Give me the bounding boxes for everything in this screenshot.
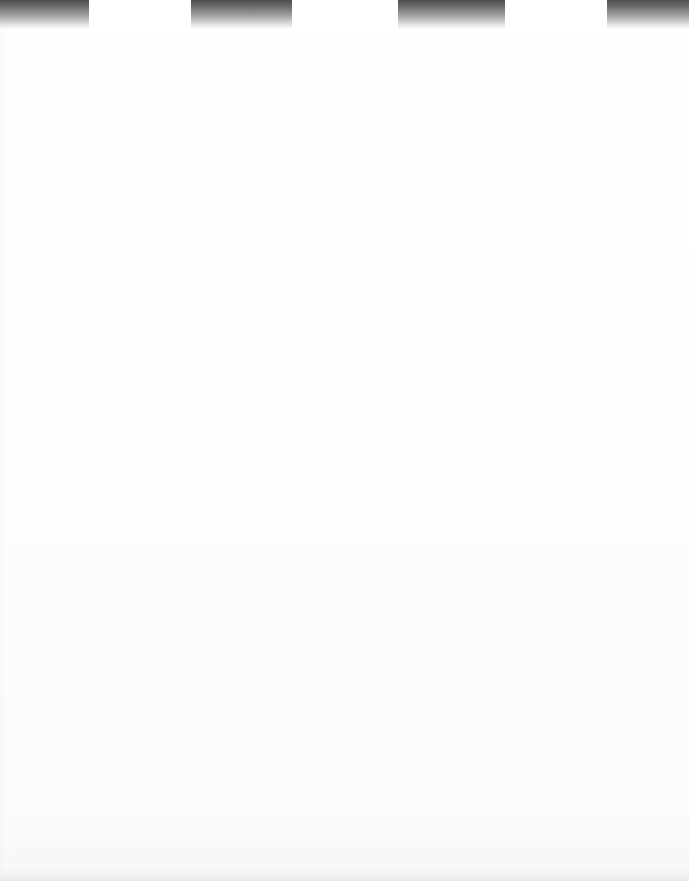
scan-edge-block xyxy=(398,0,505,30)
scan-edge-block-gradient xyxy=(398,0,505,30)
scanned-page xyxy=(0,0,689,881)
top-scan-edge-band xyxy=(0,0,689,32)
scan-edge-block xyxy=(0,0,89,30)
scan-edge-block xyxy=(607,0,689,30)
scan-edge-block-gradient xyxy=(607,0,689,30)
page-surface xyxy=(0,0,689,881)
scan-edge-block-gradient xyxy=(0,0,89,30)
scan-edge-block-gradient xyxy=(191,0,292,30)
scan-edge-block xyxy=(191,0,292,30)
